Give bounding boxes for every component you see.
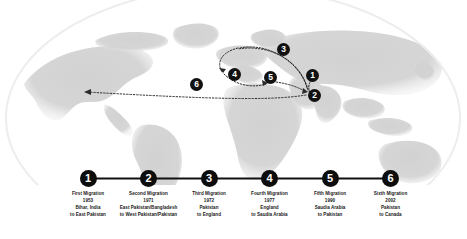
timeline-node-4[interactable]: 4 — [261, 170, 278, 187]
timeline-title-6: Sixth Migration — [331, 191, 451, 198]
map-marker-5[interactable]: 5 — [264, 71, 277, 84]
timeline-year-6: 2002 — [331, 198, 451, 205]
timeline-node-2[interactable]: 2 — [140, 170, 157, 187]
arrow-outer-upper — [238, 48, 308, 90]
arrow-6-canada — [86, 92, 306, 99]
map-marker-1[interactable]: 1 — [306, 69, 319, 82]
map-marker-2[interactable]: 2 — [308, 89, 321, 102]
timeline-to-6: to Canada — [331, 212, 451, 219]
arrowhead-1 — [302, 88, 308, 94]
map-marker-6[interactable]: 6 — [190, 78, 203, 91]
timeline-node-5[interactable]: 5 — [322, 170, 339, 187]
timeline-node-6[interactable]: 6 — [382, 170, 399, 187]
timeline-node-3[interactable]: 3 — [201, 170, 218, 187]
timeline-node-1[interactable]: 1 — [80, 170, 97, 187]
timeline: 1 2 3 4 5 6 First Migration 1953 Bihar, … — [0, 160, 467, 239]
arrowhead-canada — [84, 89, 91, 95]
timeline-label-6: Sixth Migration 2002 Pakistan to Canada — [331, 191, 451, 219]
map-marker-4[interactable]: 4 — [228, 68, 241, 81]
migration-arrows — [0, 0, 467, 185]
migration-infographic: 1 2 3 4 5 6 1 2 3 4 5 6 First Migration … — [0, 0, 467, 239]
timeline-from-6: Pakistan — [331, 205, 451, 212]
arrowhead-4 — [219, 68, 226, 73]
map-marker-3[interactable]: 3 — [277, 43, 290, 56]
arrow-5-1 — [276, 82, 306, 92]
